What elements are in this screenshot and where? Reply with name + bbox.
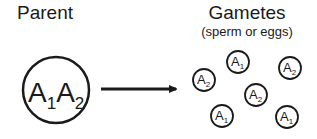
gamete-circle: A1 <box>276 106 298 128</box>
gamete-circle: A2 <box>279 57 301 79</box>
gametes-group: A1A2A2A2A1A1 <box>193 51 301 128</box>
gamete-allele: A2 <box>197 72 211 89</box>
gamete-allele: A1 <box>231 54 245 71</box>
gamete-allele: A1 <box>215 108 229 125</box>
parent-allele-1: A1A2 <box>28 77 84 113</box>
gamete-circle: A1 <box>211 105 233 127</box>
gamete-circle: A2 <box>245 84 267 106</box>
gamete-allele: A2 <box>283 60 297 77</box>
gamete-circle: A2 <box>193 69 215 91</box>
gamete-circle: A1 <box>227 51 249 73</box>
gamete-allele: A2 <box>249 87 263 104</box>
gamete-allele: A1 <box>280 109 294 126</box>
parent-genotype-circle: A1A2 <box>23 57 89 123</box>
diagram-canvas: A1A2 A1A2A2A2A1A1 <box>0 0 317 139</box>
